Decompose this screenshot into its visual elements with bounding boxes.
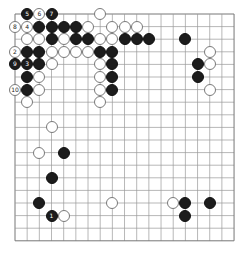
move-number-label: 6 [37,11,41,17]
white-stone: 8 [9,21,21,33]
move-number-label: 7 [50,11,54,17]
white-stone [33,147,45,159]
white-stone [58,33,70,45]
black-stone: 7 [46,8,58,20]
black-stone [33,21,45,33]
black-stone [58,21,70,33]
white-stone [58,210,70,222]
white-stone [82,46,94,58]
white-stone [106,21,118,33]
move-number-label: 8 [13,24,17,30]
black-stone [192,58,204,70]
white-stone [131,21,143,33]
white-stone [119,21,131,33]
white-stone [46,121,58,133]
black-stone [21,46,33,58]
white-stone [46,46,58,58]
black-stone [70,21,82,33]
move-number-label: 10 [11,87,19,93]
black-stone [179,210,191,222]
black-stone [131,33,143,45]
black-stone [46,21,58,33]
black-stone [58,147,70,159]
white-stone: 2 [9,46,21,58]
white-stone: 4 [21,21,33,33]
black-stone [70,33,82,45]
white-stone [46,58,58,70]
black-stone [143,33,155,45]
move-number-label: 5 [25,11,29,17]
move-number-label: 3 [25,61,29,67]
white-stone [58,46,70,58]
black-stone [46,172,58,184]
black-stone [192,71,204,83]
black-stone: 1 [46,210,58,222]
black-stone [119,33,131,45]
black-stone [46,33,58,45]
move-number-label: 9 [13,61,17,67]
move-number-label: 1 [50,213,54,219]
white-stone [204,46,216,58]
go-board[interactable]: 56784293101 [0,0,245,254]
move-number-label: 2 [13,49,17,55]
black-stone [94,46,106,58]
move-number-label: 4 [25,24,29,30]
white-stone: 10 [9,84,21,96]
white-stone [94,84,106,96]
white-stone [204,84,216,96]
white-stone [33,84,45,96]
white-stone [70,46,82,58]
black-stone [21,84,33,96]
black-stone [204,197,216,209]
white-stone [82,21,94,33]
black-stone [106,84,118,96]
